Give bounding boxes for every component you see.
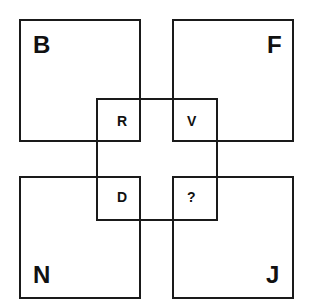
letter-inner-top-right: V (187, 114, 196, 128)
letter-inner-bottom-left: D (117, 190, 127, 204)
letter-top-left: B (33, 33, 50, 57)
letter-bottom-right: J (266, 263, 279, 287)
letter-inner-top-left: R (117, 114, 127, 128)
letter-inner-bottom-right-unknown: ? (187, 190, 196, 204)
letter-top-right: F (267, 33, 282, 57)
letter-bottom-left: N (33, 263, 50, 287)
square-center (96, 98, 218, 221)
